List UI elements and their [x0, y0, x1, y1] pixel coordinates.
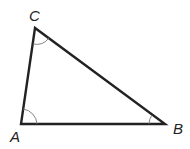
vertex-label-a: A: [9, 128, 20, 145]
angle-arc-b: [149, 115, 152, 124]
vertex-label-b: B: [173, 120, 183, 137]
angle-arc-a: [23, 109, 37, 124]
triangle-abc: [21, 28, 165, 124]
vertex-label-c: C: [29, 7, 40, 24]
angle-arc-c: [33, 38, 49, 44]
triangle-diagram: C A B: [0, 0, 190, 149]
